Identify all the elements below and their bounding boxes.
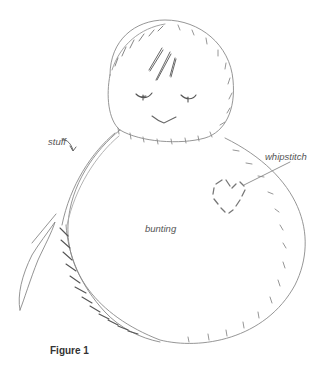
hair-strokes (149, 48, 176, 80)
stuff-label: stuff (48, 136, 66, 147)
snowman-bunting-illustration (0, 0, 325, 367)
whipstitch-left (60, 228, 138, 334)
whipstitch-label: whipstitch (265, 151, 307, 162)
bunting-label: bunting (145, 223, 176, 234)
heart-whipstitch (213, 180, 245, 213)
head-opening-stitch (112, 24, 165, 70)
mouth (152, 116, 176, 123)
left-eye (136, 93, 152, 100)
body-outline (68, 130, 305, 343)
head-outline (108, 20, 233, 142)
right-eye (181, 95, 196, 102)
stuffing-tool (19, 222, 55, 310)
figure-caption: Figure 1 (50, 345, 89, 356)
